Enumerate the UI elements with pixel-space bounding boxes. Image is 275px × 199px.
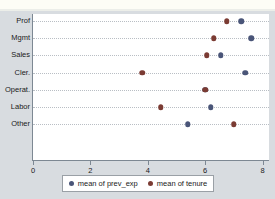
- data-point: [139, 70, 145, 76]
- data-point: [238, 18, 244, 24]
- legend-label-prev-exp: mean of prev_exp: [78, 179, 138, 188]
- chart-figure: ProfMgmtSalesCler.Operat.LaborOther 0246…: [0, 0, 275, 199]
- x-tick-label: 4: [146, 166, 150, 175]
- grid-line: [33, 38, 269, 39]
- chart-legend: mean of prev_exp mean of tenure: [62, 175, 214, 192]
- grid-line: [33, 21, 269, 22]
- y-axis-line: [32, 14, 33, 161]
- data-point: [185, 121, 191, 127]
- y-axis-label: Cler.: [0, 69, 30, 77]
- x-tick-label: 6: [203, 166, 207, 175]
- y-axis-label: Other: [0, 120, 30, 128]
- legend-marker-tenure: [148, 181, 153, 186]
- top-band-edge: [0, 9, 275, 11]
- x-tick: [33, 161, 34, 165]
- y-axis-label: Mgmt: [0, 34, 30, 42]
- data-point: [202, 87, 208, 93]
- grid-line: [33, 73, 269, 74]
- data-point: [224, 18, 230, 24]
- x-axis-line: [32, 160, 269, 161]
- y-axis-label: Prof: [0, 17, 30, 25]
- data-point: [248, 35, 254, 41]
- x-tick: [205, 161, 206, 165]
- top-band: [0, 0, 275, 9]
- x-tick-label: 0: [31, 166, 35, 175]
- data-point: [231, 121, 237, 127]
- x-tick: [263, 161, 264, 165]
- data-point: [158, 104, 164, 110]
- data-point: [218, 53, 224, 59]
- grid-line: [33, 55, 269, 56]
- data-point: [208, 104, 214, 110]
- x-tick: [148, 161, 149, 165]
- data-point: [243, 70, 249, 76]
- plot-area: [33, 14, 269, 160]
- data-point: [204, 53, 210, 59]
- y-axis-label: Labor: [0, 103, 30, 111]
- data-point: [211, 35, 217, 41]
- y-axis-label: Operat.: [0, 86, 30, 94]
- legend-item-tenure: mean of tenure: [148, 179, 207, 188]
- x-tick: [90, 161, 91, 165]
- legend-marker-prev-exp: [69, 181, 74, 186]
- grid-line: [33, 90, 269, 91]
- legend-item-prev-exp: mean of prev_exp: [69, 179, 138, 188]
- grid-line: [33, 107, 269, 108]
- y-axis-label: Sales: [0, 51, 30, 59]
- x-tick-label: 2: [88, 166, 92, 175]
- legend-label-tenure: mean of tenure: [157, 179, 207, 188]
- x-tick-label: 8: [261, 166, 265, 175]
